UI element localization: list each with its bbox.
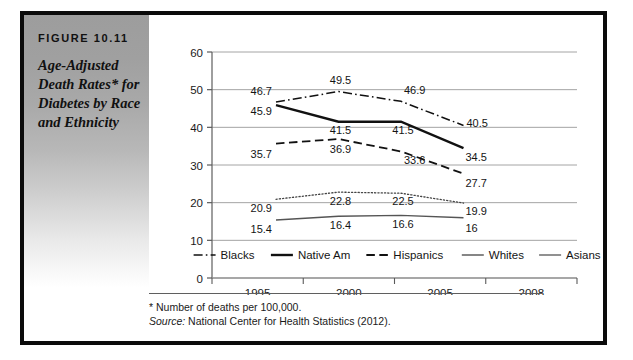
data-label-asians-2005: 16.6 <box>392 218 413 230</box>
y-tick-label: 0 <box>197 273 203 285</box>
footnote-text: * Number of deaths per 100,000. <box>149 301 549 315</box>
data-label-hispanics-1995: 35.7 <box>251 148 272 160</box>
figure-inner: FIGURE 10.11 Age-Adjusted Death Rates* f… <box>24 15 603 341</box>
data-label-whites-2000: 22.8 <box>330 195 351 207</box>
chart-legend: BlacksNative AmHispanicsWhitesAsians <box>194 249 601 261</box>
x-axis-tick-marks <box>212 278 577 284</box>
series-line-whites <box>276 192 464 203</box>
series-line-asians <box>276 215 464 220</box>
data-label-blacks-2005: 46.9 <box>404 84 425 96</box>
data-label-whites-2008: 19.9 <box>466 205 487 217</box>
y-axis-tick-marks <box>207 52 212 278</box>
series-line-hispanics <box>276 139 464 174</box>
footnote-divider <box>149 293 542 294</box>
source-label: Source: <box>149 315 185 327</box>
data-label-native-am-1995: 45.9 <box>251 105 272 117</box>
data-label-whites-2005: 22.5 <box>392 195 413 207</box>
figure-frame: FIGURE 10.11 Age-Adjusted Death Rates* f… <box>20 11 607 345</box>
data-label-native-am-2008: 34.5 <box>466 151 487 163</box>
footnote-marker: * <box>149 301 153 313</box>
chart-series-lines <box>276 92 464 220</box>
y-axis-tick-labels: 0102030405060 <box>190 47 203 285</box>
y-tick-label: 60 <box>190 47 203 59</box>
data-label-hispanics-2005: 33.6 <box>404 154 425 166</box>
data-label-native-am-2000: 41.5 <box>330 124 351 136</box>
legend-label-hispanics: Hispanics <box>393 249 443 261</box>
source-text: Source: National Center for Health Stati… <box>149 315 549 329</box>
data-label-blacks-2000: 49.5 <box>330 74 351 86</box>
data-label-hispanics-2008: 27.7 <box>466 177 487 189</box>
figure-caption-panel: FIGURE 10.11 Age-Adjusted Death Rates* f… <box>24 15 149 287</box>
data-label-asians-1995: 15.4 <box>251 223 272 235</box>
y-tick-label: 50 <box>190 84 203 96</box>
data-label-hispanics-2000: 36.9 <box>330 143 351 155</box>
legend-label-asians: Asians <box>566 249 601 261</box>
data-label-blacks-1995: 46.7 <box>251 85 272 97</box>
y-tick-label: 10 <box>190 235 203 247</box>
y-tick-label: 20 <box>190 197 203 209</box>
chart-data-labels: 46.749.546.940.545.941.541.534.535.736.9… <box>251 74 488 235</box>
legend-label-native-am: Native Am <box>298 249 350 261</box>
source-body: National Center for Health Statistics (2… <box>188 315 391 327</box>
figure-number-label: FIGURE 10.11 <box>38 32 129 44</box>
figure-title: Age-Adjusted Death Rates* for Diabetes b… <box>38 56 142 132</box>
y-tick-label: 30 <box>190 160 203 172</box>
data-label-native-am-2005: 41.5 <box>392 124 413 136</box>
data-label-asians-2008: 16 <box>466 222 478 234</box>
data-label-asians-2000: 16.4 <box>330 219 351 231</box>
legend-label-blacks: Blacks <box>221 249 255 261</box>
data-label-whites-1995: 20.9 <box>251 202 272 214</box>
y-tick-label: 40 <box>190 122 203 134</box>
legend-label-whites: Whites <box>489 249 524 261</box>
figure-footnote-block: * Number of deaths per 100,000. Source: … <box>149 293 549 328</box>
data-label-blacks-2008: 40.5 <box>467 117 488 129</box>
series-line-blacks <box>276 92 464 126</box>
line-chart: 0102030405060 1995200020052008 46.749.54… <box>149 15 609 295</box>
footnote-body: Number of deaths per 100,000. <box>156 301 301 313</box>
